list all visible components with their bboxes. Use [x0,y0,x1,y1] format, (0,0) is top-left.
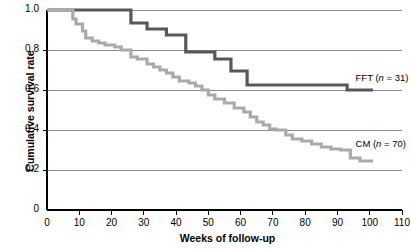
x-tick-label-30: 30 [129,217,159,228]
series-label-fft: FFT (n = 31) [356,72,409,83]
y-tick-label-1: 1.0 [5,3,39,14]
y-tick-label-0p6: 0.6 [5,83,39,94]
x-tick-label-0: 0 [32,217,62,228]
y-tick-label-0p8: 0.8 [5,43,39,54]
x-tick-label-110: 110 [387,217,411,228]
series-label-cm: CM (n = 70) [356,138,406,149]
x-tick-label-20: 20 [97,217,127,228]
y-tick-label-0: 0 [5,203,39,214]
x-tick-label-80: 80 [290,217,320,228]
x-tick-label-50: 50 [193,217,223,228]
y-tick-label-0p2: 0.2 [5,163,39,174]
survival-chart: Cumulative survival rate Weeks of follow… [0,0,411,250]
x-tick-label-100: 100 [355,217,385,228]
plot-area [0,0,411,250]
x-tick-label-60: 60 [226,217,256,228]
x-tick-label-70: 70 [258,217,288,228]
x-tick-label-40: 40 [161,217,191,228]
x-tick-label-10: 10 [64,217,94,228]
y-tick-label-0p4: 0.4 [5,123,39,134]
x-tick-label-90: 90 [322,217,352,228]
